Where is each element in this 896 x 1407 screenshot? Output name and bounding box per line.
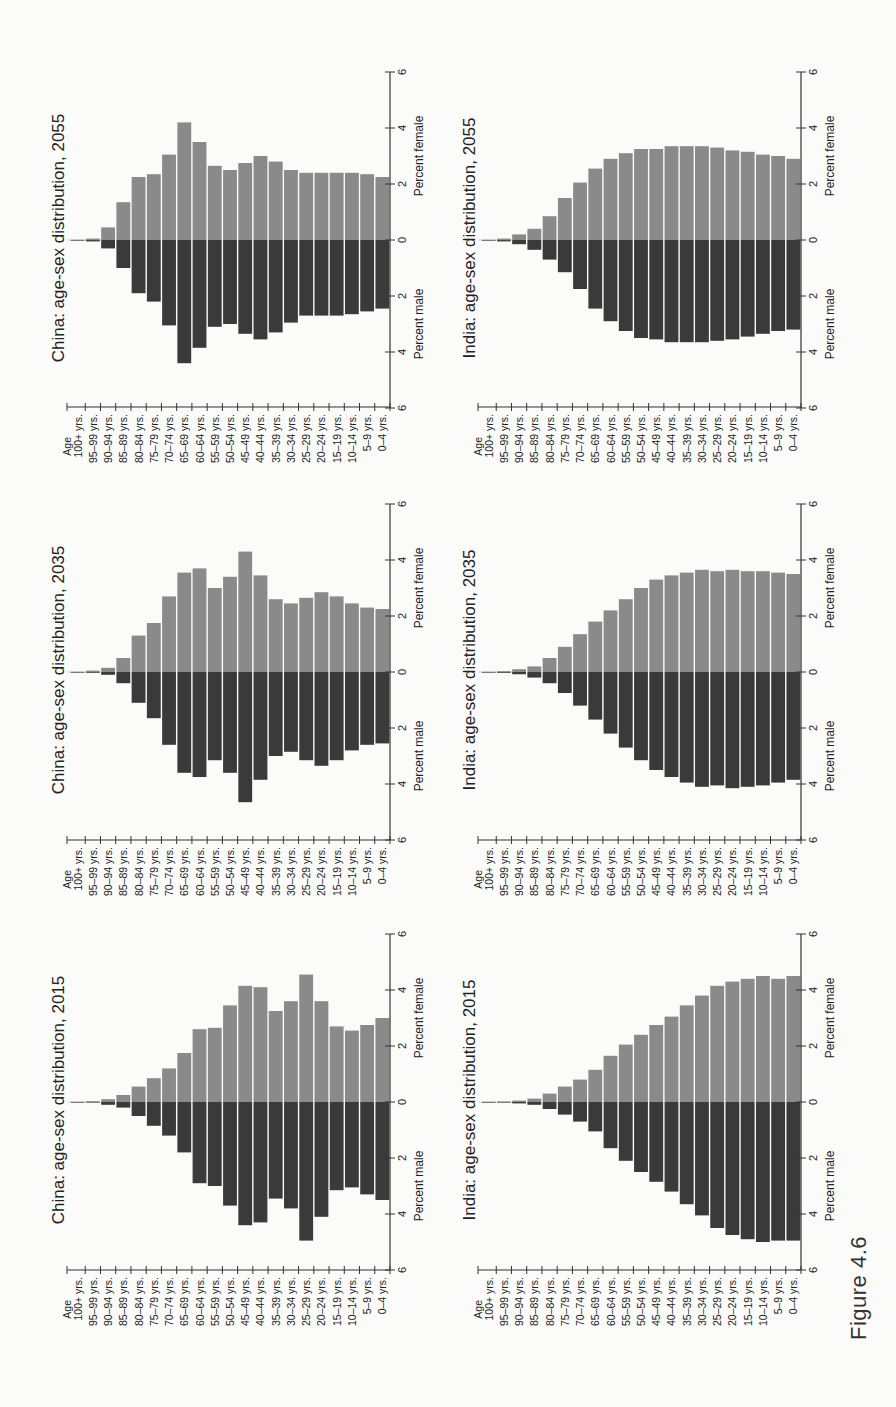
female-bar <box>710 986 724 1102</box>
percent-tick-label: 2 <box>807 1043 819 1049</box>
percent-tick-label: 2 <box>807 1155 819 1161</box>
female-bar <box>634 1035 648 1102</box>
age-tick-label: 95–99 yrs. <box>498 1277 510 1326</box>
age-tick-label: 75–79 yrs. <box>559 1277 571 1326</box>
percent-tick-label: 0 <box>807 1099 819 1105</box>
age-tick-label: 5–9 yrs. <box>772 1277 784 1314</box>
male-bar <box>680 1102 694 1204</box>
male-bar <box>512 1102 526 1103</box>
male-bar <box>573 1102 587 1122</box>
percent-axis: 6420246Percent femalePercent male <box>796 931 837 1273</box>
age-tick-label: 30–34 yrs. <box>696 1277 708 1326</box>
female-bar <box>649 1025 663 1102</box>
male-bar <box>786 1102 800 1241</box>
female-bar <box>786 976 800 1102</box>
age-tick-label: 15–19 yrs. <box>742 1277 754 1326</box>
age-tick-label: 35–39 yrs. <box>681 1277 693 1326</box>
male-bar <box>634 1102 648 1172</box>
age-tick-label: 20–24 yrs. <box>726 1277 738 1326</box>
male-bar <box>649 1102 663 1182</box>
pyramid-svg: Age100+ yrs.95–99 yrs.90–94 yrs.85–89 yr… <box>0 0 896 1407</box>
age-tick-label: 90–94 yrs. <box>513 1277 525 1326</box>
percent-male-label: Percent male <box>823 1150 837 1221</box>
age-tick-label: 80–84 yrs. <box>544 1277 556 1326</box>
female-bar <box>604 1056 618 1102</box>
male-bar <box>665 1102 679 1192</box>
age-axis: Age100+ yrs.95–99 yrs.90–94 yrs.85–89 yr… <box>472 1266 801 1326</box>
age-tick-label: 60–64 yrs. <box>605 1277 617 1326</box>
female-bar <box>543 1094 557 1102</box>
chart-title: India: age-sex distribution, 2015 <box>460 980 479 1221</box>
percent-tick-label: 6 <box>807 1267 819 1273</box>
male-bar <box>756 1102 770 1242</box>
male-bar <box>771 1102 785 1241</box>
age-tick-label: 10–14 yrs. <box>757 1277 769 1326</box>
male-bar <box>604 1102 618 1148</box>
age-tick-label: 100+ yrs. <box>483 1277 495 1320</box>
percent-tick-label: 4 <box>807 987 819 993</box>
female-bar <box>573 1080 587 1102</box>
female-bar <box>619 1045 633 1102</box>
female-bar <box>771 979 785 1102</box>
female-bar <box>665 1017 679 1102</box>
male-bar <box>695 1102 709 1215</box>
male-bar <box>726 1102 740 1235</box>
female-bar <box>741 979 755 1102</box>
age-tick-label: 50–54 yrs. <box>635 1277 647 1326</box>
male-bar <box>588 1102 602 1131</box>
male-bar <box>543 1102 557 1109</box>
age-tick-label: 40–44 yrs. <box>665 1277 677 1326</box>
age-tick-label: 70–74 yrs. <box>574 1277 586 1326</box>
figure-caption: Figure 4.6 <box>846 1236 872 1340</box>
female-bar <box>695 996 709 1102</box>
age-tick-label: 25–29 yrs. <box>711 1277 723 1326</box>
age-tick-label: 45–49 yrs. <box>650 1277 662 1326</box>
age-tick-label: 65–69 yrs. <box>589 1277 601 1326</box>
female-bar <box>512 1101 526 1102</box>
bars <box>482 976 801 1242</box>
male-bar <box>710 1102 724 1228</box>
percent-tick-label: 4 <box>807 1211 819 1217</box>
female-bar <box>726 982 740 1102</box>
age-tick-label: 55–59 yrs. <box>620 1277 632 1326</box>
female-bar <box>756 976 770 1102</box>
male-bar <box>558 1102 572 1115</box>
female-bar <box>558 1087 572 1102</box>
female-bar <box>588 1070 602 1102</box>
male-bar <box>527 1102 541 1105</box>
age-tick-label: 0–4 yrs. <box>787 1277 799 1314</box>
percent-tick-label: 6 <box>807 931 819 937</box>
female-bar <box>680 1005 694 1102</box>
female-bar <box>527 1099 541 1102</box>
male-bar <box>619 1102 633 1161</box>
male-bar <box>741 1102 755 1239</box>
percent-female-label: Percent female <box>823 977 837 1058</box>
age-tick-label: 85–89 yrs. <box>528 1277 540 1326</box>
